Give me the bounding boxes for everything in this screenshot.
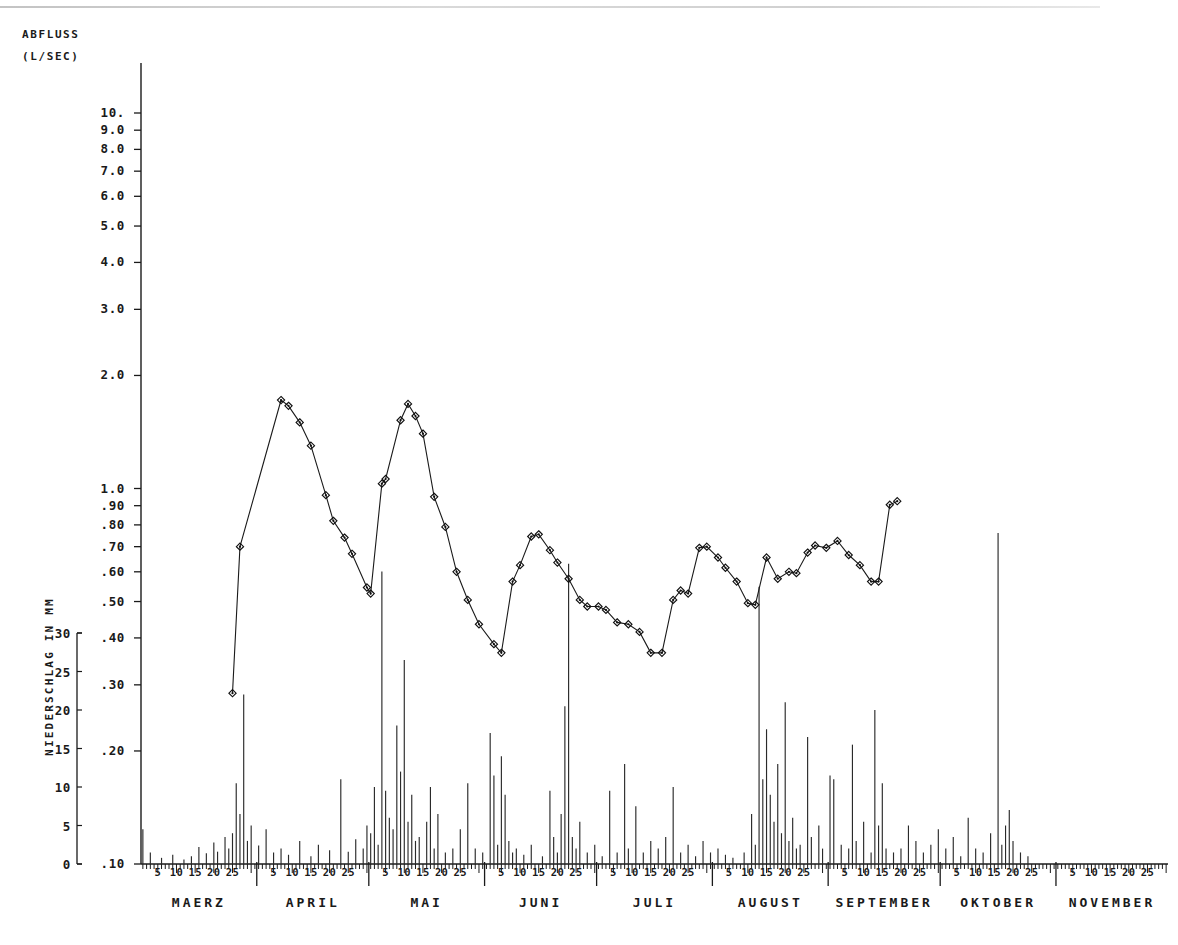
discharge-data-point-dot (814, 544, 816, 546)
discharge-data-point-dot (754, 604, 756, 606)
discharge-data-point-dot (747, 602, 749, 604)
discharge-y-tick-label: 1.0 (79, 481, 125, 496)
precipitation-bars-group (143, 533, 1028, 864)
precipitation-y-tick-label: 5 (51, 819, 71, 834)
x-axis-month-label: JUNI (485, 895, 597, 910)
x-axis-month-label: NOVEMBER (1056, 895, 1168, 910)
discharge-data-point-dot (366, 586, 368, 588)
x-axis-day-label: 25 (674, 866, 702, 878)
discharge-data-point-dot (370, 592, 372, 594)
discharge-y-tick-label: 9.0 (79, 122, 125, 137)
discharge-data-point-dot (825, 547, 827, 549)
discharge-data-point-dot (538, 533, 540, 535)
discharge-data-point-dot (896, 500, 898, 502)
discharge-data-point-dot (332, 520, 334, 522)
discharge-data-point-dot (407, 403, 409, 405)
discharge-data-point-dot (310, 445, 312, 447)
discharge-data-point-dot (795, 572, 797, 574)
discharge-data-point-dot (500, 652, 502, 654)
discharge-data-point-dot (687, 592, 689, 594)
discharge-y-tick-label: .60 (79, 564, 125, 579)
discharge-data-point-dot (870, 581, 872, 583)
discharge-data-point-dot (736, 581, 738, 583)
x-axis-month-label: OKTOBER (940, 895, 1056, 910)
axes-group (77, 63, 1168, 886)
discharge-y-tick-label: .30 (79, 677, 125, 692)
discharge-data-point-dot (579, 599, 581, 601)
x-axis-day-label: 25 (334, 866, 362, 878)
discharge-data-point-dot (848, 554, 850, 556)
discharge-data-point-dot (351, 553, 353, 555)
discharge-y-tick-label: .40 (79, 630, 125, 645)
discharge-data-point-dot (672, 599, 674, 601)
x-axis-month-label: JULI (597, 895, 713, 910)
x-axis-day-label: 25 (446, 866, 474, 878)
discharge-data-point-dot (231, 692, 233, 694)
discharge-y-tick-label: 8.0 (79, 141, 125, 156)
discharge-data-point-dot (287, 405, 289, 407)
discharge-y-tick-label: 2.0 (79, 367, 125, 382)
discharge-data-point-dot (889, 504, 891, 506)
discharge-data-point-dot (239, 546, 241, 548)
x-axis-month-label: AUGUST (712, 895, 828, 910)
precipitation-y-tick-label: 30 (51, 626, 71, 641)
precipitation-y-tick-label: 20 (51, 703, 71, 718)
discharge-y-tick-label: .70 (79, 539, 125, 554)
discharge-data-point-dot (478, 623, 480, 625)
discharge-y-tick-label: .80 (79, 517, 125, 532)
discharge-data-point-dot (717, 556, 719, 558)
discharge-data-point-dot (680, 589, 682, 591)
discharge-y-tick-label: .10 (79, 856, 125, 871)
discharge-data-point-dot (706, 546, 708, 548)
discharge-data-point-dot (519, 564, 521, 566)
discharge-data-point-dot (343, 537, 345, 539)
x-axis-day-label: 25 (906, 866, 934, 878)
discharge-data-point-dot (698, 547, 700, 549)
discharge-data-point-dot (568, 578, 570, 580)
discharge-data-point-dot (385, 478, 387, 480)
discharge-data-point-dot (859, 564, 861, 566)
discharge-data-point-dot (877, 581, 879, 583)
discharge-y-tick-label: 4.0 (79, 254, 125, 269)
precipitation-y-tick-label: 10 (51, 780, 71, 795)
discharge-data-point-dot (586, 605, 588, 607)
x-axis-month-label: MAERZ (141, 895, 257, 910)
x-axis-month-label: MAI (369, 895, 485, 910)
discharge-data-point-dot (455, 571, 457, 573)
x-axis-day-label: 25 (562, 866, 590, 878)
precipitation-y-tick-label: 25 (51, 665, 71, 680)
discharge-y-tick-label: 3.0 (79, 301, 125, 316)
discharge-data-point-dot (549, 549, 551, 551)
discharge-data-point-dot (467, 599, 469, 601)
discharge-data-point-dot (605, 609, 607, 611)
discharge-data-point-dot (299, 421, 301, 423)
discharge-data-point-dot (638, 631, 640, 633)
discharge-data-point-dot (422, 433, 424, 435)
precipitation-y-tick-label: 15 (51, 742, 71, 757)
discharge-y-tick-label: .90 (79, 498, 125, 513)
discharge-data-point-dot (627, 623, 629, 625)
discharge-data-point-dot (399, 419, 401, 421)
discharge-data-point-dot (597, 605, 599, 607)
x-axis-month-label: SEPTEMBER (828, 895, 940, 910)
discharge-data-point-dot (414, 415, 416, 417)
discharge-y-tick-label: 6.0 (79, 188, 125, 203)
discharge-data-point-dot (661, 652, 663, 654)
hydrograph-plot (0, 0, 1178, 945)
x-axis-day-label: 25 (1133, 866, 1161, 878)
discharge-y-tick-label: 7.0 (79, 163, 125, 178)
discharge-data-point-dot (724, 567, 726, 569)
discharge-y-tick-label: .50 (79, 594, 125, 609)
discharge-data-point-dot (493, 643, 495, 645)
x-axis-day-label: 25 (790, 866, 818, 878)
discharge-data-point-dot (807, 552, 809, 554)
discharge-y-tick-label: 10. (79, 105, 125, 120)
discharge-data-point-dot (530, 535, 532, 537)
discharge-markers-group (229, 396, 901, 696)
discharge-data-point-dot (616, 621, 618, 623)
discharge-data-point-dot (556, 561, 558, 563)
discharge-y-tick-label: .20 (79, 743, 125, 758)
discharge-data-point-dot (836, 540, 838, 542)
discharge-line-group (233, 400, 898, 693)
precipitation-y-tick-label: 0 (51, 857, 71, 872)
